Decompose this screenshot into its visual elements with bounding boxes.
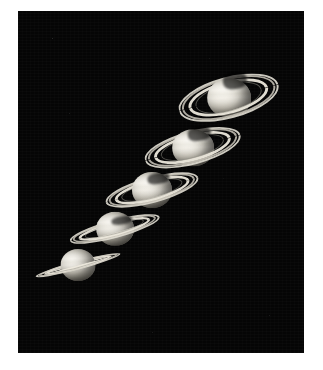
astronomy-photo-plate	[18, 11, 304, 353]
saturn-frame-1	[177, 46, 280, 149]
saturn-system	[165, 34, 291, 160]
screenshot-canvas: Saturn ring-tilt sequence	[0, 0, 323, 370]
